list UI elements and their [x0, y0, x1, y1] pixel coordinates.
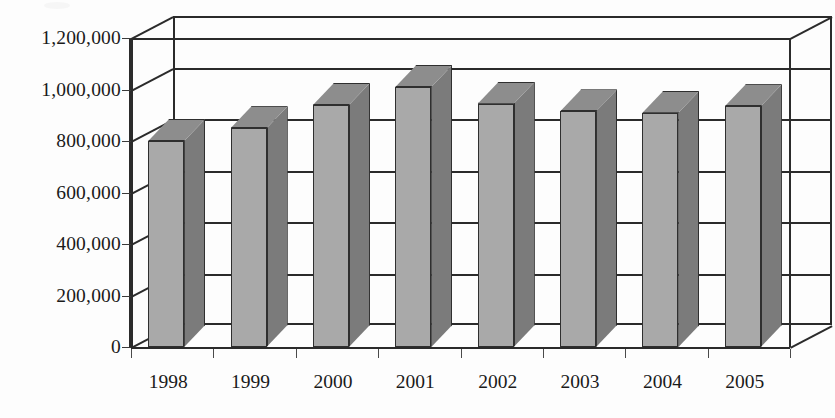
bar-front-face — [560, 111, 596, 347]
x-tick-8 — [790, 349, 791, 358]
floor-right-edge — [790, 325, 833, 349]
y-tick-1000000 — [122, 90, 131, 91]
bar-2000 — [313, 83, 349, 347]
bar-2004 — [642, 91, 678, 347]
x-tick-label-2004: 2004 — [617, 372, 707, 392]
x-tick-label-2002: 2002 — [453, 372, 543, 392]
bar-1998 — [148, 119, 184, 347]
bar-front-face — [642, 113, 678, 347]
x-tick-3 — [378, 349, 379, 358]
bar-2005 — [725, 84, 761, 347]
bar-1999 — [231, 106, 267, 347]
y-tick-label-0: 0 — [1, 337, 121, 357]
side-rib-1000000 — [131, 68, 174, 92]
x-tick-label-2003: 2003 — [535, 372, 625, 392]
y-tick-label-200000: 200,000 — [1, 286, 121, 306]
bar-side-face — [761, 84, 782, 347]
bar-side-face — [184, 119, 205, 347]
y-tick-1200000 — [122, 38, 131, 39]
bar-2003 — [560, 89, 596, 347]
bar-front-face — [395, 87, 431, 347]
x-tick-label-2005: 2005 — [700, 372, 790, 392]
bar-2002 — [478, 82, 514, 347]
plot-top-edge — [131, 38, 790, 40]
y-tick-0 — [122, 347, 131, 348]
x-tick-7 — [708, 349, 709, 358]
x-tick-4 — [461, 349, 462, 358]
bar-chart: 0200,000400,000600,000800,0001,000,0001,… — [0, 0, 835, 418]
y-tick-label-1200000: 1,200,000 — [1, 28, 121, 48]
bar-front-face — [313, 105, 349, 347]
x-tick-label-1999: 1999 — [206, 372, 296, 392]
x-tick-label-2001: 2001 — [370, 372, 460, 392]
bar-front-face — [231, 128, 267, 347]
bar-side-face — [596, 89, 617, 347]
bar-side-face — [514, 82, 535, 347]
bar-side-face — [678, 91, 699, 347]
x-tick-5 — [543, 349, 544, 358]
bar-side-face — [431, 65, 452, 347]
gridline-1000000 — [173, 68, 832, 70]
y-tick-400000 — [122, 244, 131, 245]
bar-front-face — [725, 106, 761, 347]
x-tick-1 — [213, 349, 214, 358]
gridline-1200000 — [173, 16, 832, 18]
y-tick-800000 — [122, 141, 131, 142]
plot-right-edge — [789, 38, 791, 347]
y-tick-label-1000000: 1,000,000 — [1, 80, 121, 100]
side-rib-1200000 — [131, 16, 174, 40]
x-tick-label-1998: 1998 — [123, 372, 213, 392]
x-tick-2 — [296, 349, 297, 358]
y-tick-label-400000: 400,000 — [1, 234, 121, 254]
x-tick-label-2000: 2000 — [288, 372, 378, 392]
y-tick-label-600000: 600,000 — [1, 183, 121, 203]
bar-front-face — [148, 141, 184, 347]
scan-artifact — [44, 2, 70, 9]
bar-side-face — [267, 106, 288, 347]
bar-side-face — [349, 83, 370, 347]
y-tick-200000 — [122, 296, 131, 297]
y-tick-label-800000: 800,000 — [1, 131, 121, 151]
y-tick-600000 — [122, 193, 131, 194]
bar-front-face — [478, 104, 514, 347]
x-tick-6 — [625, 349, 626, 358]
x-tick-0 — [131, 349, 132, 358]
bar-2001 — [395, 65, 431, 347]
